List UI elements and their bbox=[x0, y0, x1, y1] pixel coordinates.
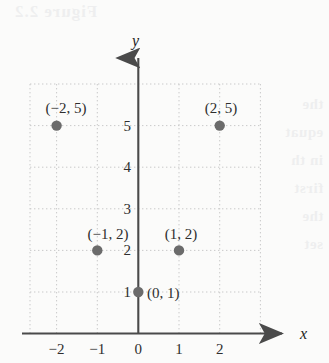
point-label: (−1, 2) bbox=[88, 227, 129, 242]
y-axis-label: y bbox=[132, 33, 139, 49]
data-point[interactable] bbox=[92, 245, 102, 255]
x-tick-label: 0 bbox=[135, 342, 143, 357]
x-tick-label: 1 bbox=[175, 342, 183, 357]
y-tick-label: 1 bbox=[113, 285, 131, 300]
data-point[interactable] bbox=[133, 287, 143, 297]
y-tick-label: 2 bbox=[113, 243, 131, 258]
figure-canvas: Figure 2.2 the equat in th first the set bbox=[0, 0, 329, 363]
y-tick-label: 4 bbox=[113, 160, 131, 175]
data-point[interactable] bbox=[51, 120, 61, 130]
x-axis-label: x bbox=[300, 326, 307, 342]
x-tick-label: −2 bbox=[49, 342, 65, 357]
data-point[interactable] bbox=[174, 245, 184, 255]
scatter-plot bbox=[0, 0, 329, 363]
point-label: (0, 1) bbox=[147, 286, 180, 301]
x-tick-label: −1 bbox=[89, 342, 105, 357]
point-label: (1, 2) bbox=[165, 227, 198, 242]
x-tick-label: 2 bbox=[216, 342, 224, 357]
point-label: (2, 5) bbox=[205, 101, 238, 116]
data-point[interactable] bbox=[215, 120, 225, 130]
y-tick-label: 5 bbox=[113, 118, 131, 133]
y-tick-label: 3 bbox=[113, 201, 131, 216]
point-label: (−2, 5) bbox=[46, 101, 87, 116]
grid-lines-vertical bbox=[30, 84, 260, 333]
